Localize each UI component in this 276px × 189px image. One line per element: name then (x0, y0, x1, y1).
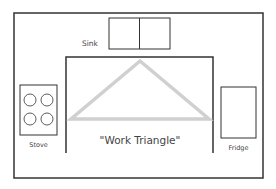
work-triangle-label: "Work Triangle" (100, 134, 181, 146)
fridge-label: Fridge (229, 144, 249, 152)
work-triangle (71, 61, 209, 119)
kitchen-diagram: Sink "Work Triangle" Stove Fridge (0, 0, 276, 189)
stove-label: Stove (29, 141, 48, 149)
fridge (221, 87, 256, 138)
sink-label: Sink (82, 39, 99, 48)
stove-body (20, 85, 57, 135)
sink (109, 18, 170, 49)
stove (20, 85, 57, 135)
